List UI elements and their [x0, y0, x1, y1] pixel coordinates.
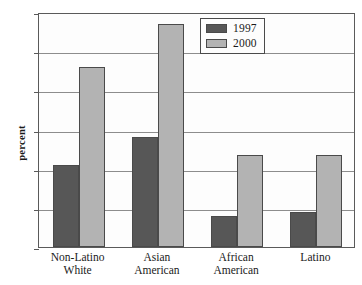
legend-label-2000: 2000 [233, 38, 257, 50]
y-axis-title: percent [16, 125, 27, 161]
bar-1997-asian-american [132, 137, 158, 247]
x-tick-label: Latino [260, 251, 362, 264]
bar-2000-non-latino-white [79, 67, 105, 247]
chart-legend: 1997 2000 [200, 18, 265, 54]
bar-1997-latino [290, 212, 316, 247]
x-tick-label-line: Latino [260, 251, 362, 264]
bar-group [39, 14, 118, 247]
bar-2000-asian-american [158, 24, 184, 247]
x-tick-label-line: American [181, 264, 291, 277]
legend-swatch-1997 [206, 24, 227, 33]
bar-1997-non-latino-white [53, 165, 79, 247]
bar-2000-african-american [237, 155, 263, 247]
y-tick-mark [34, 249, 39, 250]
bar-group [277, 14, 356, 247]
legend-item-2000: 2000 [206, 38, 257, 50]
bar-1997-african-american [211, 216, 237, 247]
legend-label-1997: 1997 [233, 23, 257, 35]
bar-chart: percent 0102030405060 Non-LatinoWhiteAsi… [0, 0, 362, 285]
legend-item-1997: 1997 [206, 23, 257, 35]
legend-swatch-2000 [206, 39, 227, 48]
plot-area [38, 13, 355, 248]
bar-group [118, 14, 197, 247]
bar-2000-latino [316, 155, 342, 247]
